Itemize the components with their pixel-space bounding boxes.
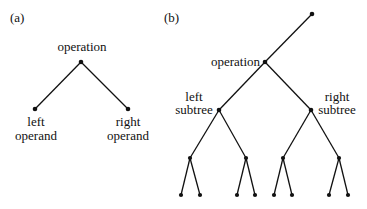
panel-b-right-subtree-node — [309, 108, 314, 113]
panel-b-edge — [190, 158, 200, 195]
panel-b-operation-node — [263, 60, 268, 65]
panel-b-leaf-node — [198, 193, 202, 197]
panel-a-right-label-line1: right — [116, 114, 141, 129]
panel-b-parent-edge — [265, 14, 312, 62]
panel-a-right-operand-node — [126, 107, 131, 112]
panel-b-operation-label: operation — [211, 54, 261, 69]
panel-b-edge — [283, 110, 311, 158]
panel-a-left-label-line1: left — [27, 114, 45, 129]
panel-b-edge — [339, 158, 348, 195]
panel-b-parent-node — [310, 12, 315, 17]
panel-b-edge — [246, 158, 255, 195]
panel-a-left-edge — [35, 62, 81, 109]
expression-tree-figure: (a) operation left operand right operand… — [0, 0, 367, 209]
panel-b-leaf-node — [327, 193, 331, 197]
panel-b-edge — [190, 110, 219, 158]
panel-b-left-label-line2: subtree — [175, 102, 213, 117]
panel-b-leaf-node — [253, 193, 257, 197]
panel-a-root-node — [79, 60, 84, 65]
panel-a-root-label: operation — [57, 39, 107, 54]
panel-b-edge — [219, 110, 246, 158]
panel-b-node — [188, 156, 192, 160]
panel-a-label: (a) — [10, 10, 24, 25]
panel-a-left-label-line2: operand — [15, 128, 57, 143]
panel-a-right-label-line2: operand — [107, 128, 149, 143]
panel-b-edge — [181, 158, 190, 195]
panel-b-leaf-node — [290, 193, 294, 197]
panel-b-right-edge — [265, 62, 311, 110]
panel-b-left-edge — [219, 62, 265, 110]
panel-b-edge — [237, 158, 246, 195]
panel-b-leaf-node — [235, 193, 239, 197]
panel-a-left-operand-node — [33, 107, 38, 112]
panel-b-node — [337, 156, 341, 160]
panel-b-leaf-node — [346, 193, 350, 197]
panel-b-leaf-node — [179, 193, 183, 197]
panel-b-right-label-line2: subtree — [318, 102, 356, 117]
panel-a: (a) operation left operand right operand — [10, 10, 149, 143]
panel-b-leaf-node — [272, 193, 276, 197]
panel-b-left-subtree-node — [217, 108, 222, 113]
panel-b: (b) operation — [164, 10, 356, 197]
panel-b-edge — [283, 158, 292, 195]
panel-b-edge — [329, 158, 339, 195]
panel-b-node — [281, 156, 285, 160]
panel-b-edge — [311, 110, 339, 158]
panel-b-node — [244, 156, 248, 160]
panel-b-label: (b) — [164, 10, 179, 25]
panel-a-right-edge — [81, 62, 128, 109]
panel-b-edge — [274, 158, 283, 195]
